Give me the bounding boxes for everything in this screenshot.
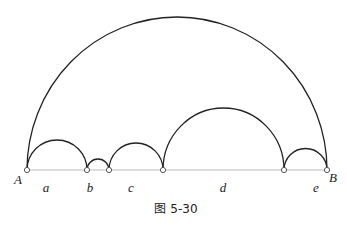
endpoint-label-a: A — [14, 172, 22, 188]
arc-c — [109, 143, 163, 170]
segment-label-a: a — [43, 180, 50, 196]
arc-b — [87, 159, 109, 170]
semicircle-diagram — [0, 0, 347, 226]
outer-arc — [27, 17, 327, 170]
figure-caption: 图 5-30 — [154, 199, 197, 216]
arc-d — [163, 108, 284, 170]
segment-label-d: d — [220, 180, 227, 196]
segment-label-e: e — [313, 180, 319, 196]
segment-label-b: b — [87, 180, 94, 196]
segment-label-c: c — [128, 180, 134, 196]
arc-e — [284, 149, 327, 171]
endpoint-label-b: B — [329, 170, 337, 186]
arc-a — [27, 140, 87, 170]
